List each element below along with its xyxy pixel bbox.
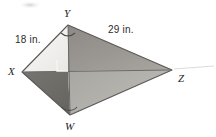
faint-line-right-of-z: [174, 66, 214, 69]
measurement-label-side-yz: 29 in.: [108, 25, 134, 35]
vertex-label-y: Y: [64, 8, 70, 19]
vertex-label-x: X: [8, 66, 15, 77]
vertex-label-w: W: [65, 121, 74, 132]
kite-diagram-svg: [0, 0, 216, 137]
measurement-label-side-xy: 18 in.: [15, 35, 41, 45]
geometry-figure: Y X Z W 18 in. 29 in.: [0, 0, 216, 137]
vertex-label-z: Z: [178, 73, 184, 84]
ink-smudge-decoration: [18, 1, 42, 9]
